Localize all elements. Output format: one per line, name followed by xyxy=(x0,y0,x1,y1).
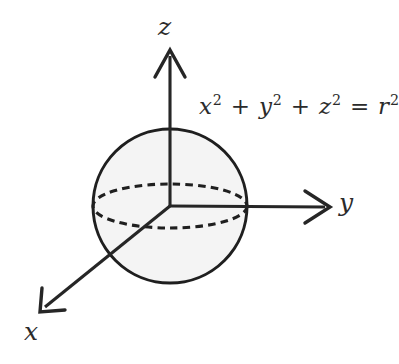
sphere-equation: x2 + y2 + z2 = r2 xyxy=(199,95,399,118)
equation-term-y-exponent: 2 xyxy=(273,92,282,108)
y-axis-line xyxy=(170,206,325,207)
coordinate-system-canvas xyxy=(0,0,399,364)
z-axis-label: z xyxy=(158,14,171,39)
equation-plus-2: + xyxy=(290,93,312,119)
equation-plus-1: + xyxy=(230,93,252,119)
equation-term-z: z xyxy=(319,93,331,119)
equation-equals: = xyxy=(349,93,371,119)
equation-term-y: y xyxy=(259,93,272,119)
equation-term-z-exponent: 2 xyxy=(332,92,341,108)
x-axis-label: x xyxy=(24,319,38,344)
equation-term-x: x xyxy=(199,93,212,119)
y-axis-label: y xyxy=(339,190,353,215)
equation-rhs-exponent: 2 xyxy=(390,92,399,108)
sphere-equation-figure: z y x x2 + y2 + z2 = r2 xyxy=(0,0,399,364)
equation-rhs-r: r xyxy=(378,93,389,119)
equation-term-x-exponent: 2 xyxy=(213,92,222,108)
